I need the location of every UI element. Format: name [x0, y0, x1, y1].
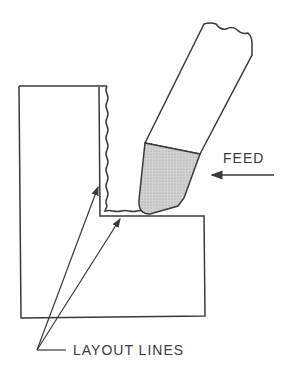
cutting-tool [139, 23, 252, 214]
diagram-canvas [0, 0, 288, 367]
layout-line-leaders [37, 187, 120, 350]
feed-label: FEED [223, 150, 264, 166]
tool-shaft [145, 23, 252, 154]
layout-lines-label: LAYOUT LINES [73, 342, 184, 358]
tool-tip [139, 143, 200, 214]
